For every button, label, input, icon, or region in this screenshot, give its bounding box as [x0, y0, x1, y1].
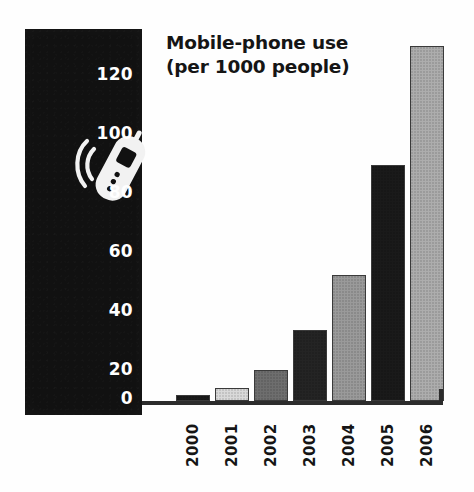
- chart-side-panel: 120 100 80 60 40 20 0: [25, 29, 142, 415]
- bar-2006: [410, 46, 444, 401]
- y-axis-tick-60: 60: [25, 243, 142, 260]
- bar-2002: [254, 370, 288, 401]
- bar-chart-figure: 120 100 80 60 40 20 0 Mobile-phone use (…: [0, 0, 474, 492]
- x-axis-tick-2004: 2004: [340, 433, 358, 467]
- x-axis-tick-2006: 2006: [418, 433, 436, 467]
- x-axis-tick-2003: 2003: [301, 433, 319, 467]
- plot-area: [142, 29, 452, 415]
- y-axis-tick-40: 40: [25, 302, 142, 319]
- panel-texture: [25, 29, 142, 415]
- y-axis-tick-120: 120: [25, 66, 142, 83]
- x-axis-tick-2000: 2000: [184, 433, 202, 467]
- y-axis-tick-80: 80: [25, 184, 142, 201]
- bar-series: [142, 41, 452, 401]
- y-axis-tick-0: 0: [25, 390, 142, 407]
- x-axis-end-tick: [439, 389, 443, 403]
- x-axis-line: [142, 401, 443, 405]
- bar-2003: [293, 330, 327, 401]
- x-axis-tick-2002: 2002: [262, 433, 280, 467]
- y-axis-tick-100: 100: [25, 125, 142, 142]
- bar-2005: [371, 165, 405, 401]
- x-axis-tick-2001: 2001: [223, 433, 241, 467]
- x-axis-tick-2005: 2005: [379, 433, 397, 467]
- bar-2001: [215, 388, 249, 401]
- bar-2004: [332, 275, 366, 401]
- x-axis-labels: 2000 2001 2002 2003 2004 2005 2006: [142, 408, 452, 488]
- y-axis-tick-20: 20: [25, 361, 142, 378]
